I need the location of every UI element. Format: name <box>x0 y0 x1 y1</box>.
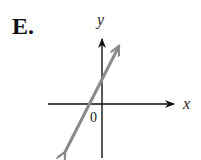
graphed-line <box>65 46 119 152</box>
origin-label: 0 <box>90 110 97 125</box>
y-axis-label: y <box>95 11 105 29</box>
coordinate-graph: y x 0 <box>0 0 201 160</box>
x-axis-label: x <box>182 95 190 112</box>
